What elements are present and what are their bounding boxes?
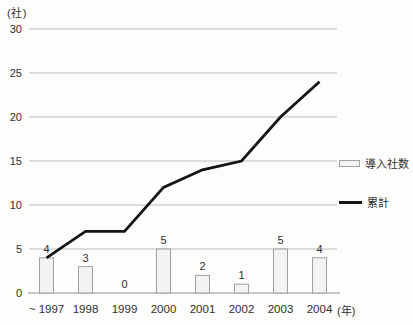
y-tick-label: 5 <box>16 243 22 255</box>
legend-item-bar-series: 導入社数 <box>339 155 409 171</box>
bar <box>40 258 54 293</box>
y-tick-label: 15 <box>10 155 22 167</box>
bar-value-label: 5 <box>277 234 283 246</box>
bar-value-label: 4 <box>43 243 49 255</box>
legend-item-line-series: 累計 <box>339 194 389 210</box>
bar <box>157 249 171 293</box>
bar-value-label: 3 <box>82 252 88 264</box>
bar-value-label: 4 <box>316 243 322 255</box>
bar-value-label: 5 <box>160 234 166 246</box>
x-tick-label: 2004 <box>307 303 333 315</box>
y-tick-label: 0 <box>16 287 22 299</box>
x-tick-label: 2001 <box>190 303 216 315</box>
x-tick-label: 2003 <box>268 303 294 315</box>
line-series-swatch-icon <box>339 201 362 204</box>
y-axis-unit-label: (社) <box>7 4 27 20</box>
y-tick-label: 30 <box>10 23 22 35</box>
bar <box>274 249 288 293</box>
bar <box>196 275 210 293</box>
bar-series-swatch-icon <box>339 160 360 167</box>
x-tick-label: ~ 1997 <box>29 303 65 315</box>
bar-value-label: 1 <box>238 269 244 281</box>
x-tick-label: 1999 <box>112 303 138 315</box>
y-tick-label: 25 <box>10 67 22 79</box>
x-axis-unit-label: (年) <box>337 302 355 318</box>
y-tick-label: 20 <box>10 111 22 123</box>
cumulative-line <box>47 82 320 258</box>
x-tick-label: 1998 <box>73 303 99 315</box>
bar-value-label: 2 <box>199 260 205 272</box>
bar-line-chart: 05101520253043052154~ 199719981999200020… <box>0 0 413 325</box>
bar <box>235 284 249 293</box>
bar <box>313 258 327 293</box>
legend-line-series-label: 累計 <box>367 194 389 210</box>
bar-value-label: 0 <box>121 278 127 290</box>
x-tick-label: 2002 <box>229 303 255 315</box>
bar <box>79 267 93 293</box>
legend-bar-series-label: 導入社数 <box>365 155 409 171</box>
x-tick-label: 2000 <box>151 303 177 315</box>
y-tick-label: 10 <box>10 199 22 211</box>
